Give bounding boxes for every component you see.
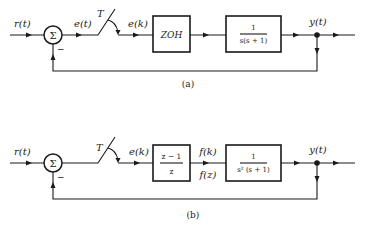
plant-denominator: s(s + 1) — [240, 37, 268, 45]
plant-denominator: s² (s + 1) — [237, 166, 270, 174]
sampled-arrow — [134, 161, 140, 166]
feedback-down-arrow — [315, 48, 320, 54]
mid-label-top: f(k) — [198, 146, 217, 157]
feedback-sign: − — [57, 44, 65, 54]
hold-to-plant-arrow — [203, 161, 209, 166]
input-label: r(t) — [14, 18, 31, 29]
sampler-arc-arrow — [116, 158, 121, 163]
plant-numerator: 1 — [251, 153, 255, 161]
zoh-to-plant-arrow — [203, 33, 209, 38]
output-label: y(t) — [308, 144, 327, 155]
plant-out-arrow — [294, 161, 300, 166]
feedback-up-arrow — [51, 182, 56, 188]
input-label: r(t) — [14, 146, 31, 157]
sampled-label: e(k) — [129, 146, 149, 157]
sampled-arrow — [133, 33, 139, 38]
summing-symbol: Σ — [49, 30, 56, 41]
plant-numerator: 1 — [251, 24, 255, 32]
diagram-b: r(t) Σ − T e(k) z − 1 z f(k) f(z) 1 s² (… — [10, 137, 355, 220]
summing-symbol: Σ — [49, 158, 56, 169]
output-arrow — [333, 161, 339, 166]
diagram-a: r(t) Σ − e(t) T e(k) ZOH 1 s(s + 1) — [10, 8, 355, 89]
hold-denominator: z — [170, 167, 174, 176]
output-label: y(t) — [308, 16, 327, 27]
block-diagram-canvas: r(t) Σ − e(t) T e(k) ZOH 1 s(s + 1) — [0, 0, 369, 233]
error-label: e(t) — [74, 18, 92, 29]
feedback-down-arrow — [315, 176, 320, 182]
input-arrow — [26, 161, 32, 166]
input-arrow — [26, 33, 32, 38]
sampler-arc-arrow — [116, 30, 121, 35]
feedback-up-arrow — [51, 54, 56, 60]
feedback-sign: − — [57, 172, 65, 182]
output-arrow — [333, 33, 339, 38]
zoh-text: ZOH — [160, 30, 183, 40]
sampled-label: e(k) — [128, 18, 148, 29]
caption-b: (b) — [187, 210, 200, 220]
sampler-label: T — [97, 8, 105, 19]
hold-numerator: z − 1 — [162, 152, 182, 161]
caption-a: (a) — [182, 79, 194, 89]
mid-label-bottom: f(z) — [199, 169, 217, 180]
plant-out-arrow — [293, 33, 299, 38]
sampler-label: T — [96, 142, 104, 153]
error-arrow — [76, 33, 82, 38]
